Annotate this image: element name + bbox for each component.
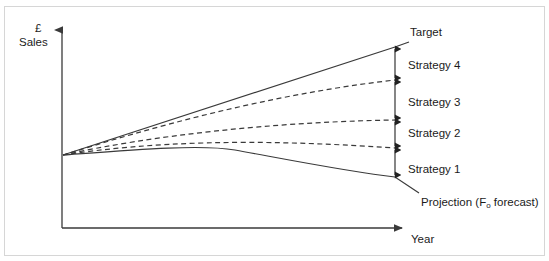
curve-label-strategy1: Strategy 1 xyxy=(408,163,460,176)
curve-label-strategy4: Strategy 4 xyxy=(408,59,460,72)
y-axis-currency-label: £ xyxy=(35,22,41,35)
diagram-canvas xyxy=(0,0,549,261)
curve-label-target: Target xyxy=(410,26,442,39)
projection-label-head: Projection (F xyxy=(421,196,486,208)
curve-strategy4 xyxy=(63,80,395,155)
projection-label-tail: forecast) xyxy=(491,196,539,208)
curve-projection xyxy=(63,147,419,193)
x-axis-label: Year xyxy=(411,233,434,246)
curve-strategy3 xyxy=(63,120,395,155)
curve-label-strategy2: Strategy 2 xyxy=(408,127,460,140)
strategy-gap-diagram: £ Sales Year Target Strategy 4 Strategy … xyxy=(0,0,549,261)
curve-label-strategy3: Strategy 3 xyxy=(408,96,460,109)
y-axis-label: Sales xyxy=(19,36,48,49)
curve-target xyxy=(63,42,409,155)
curve-label-projection: Projection (Fo forecast) xyxy=(421,196,539,210)
projection-label-subscript: o xyxy=(486,201,490,210)
